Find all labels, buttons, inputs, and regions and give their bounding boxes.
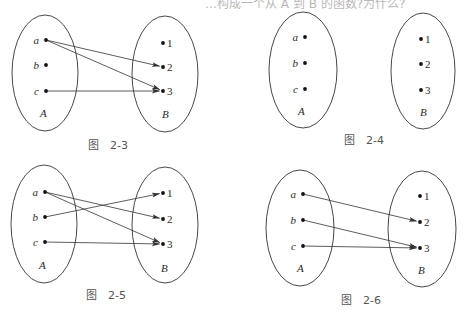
codomain-point-3 — [419, 88, 423, 92]
domain-label-c: c — [291, 240, 296, 252]
set-a-label: A — [39, 107, 47, 119]
codomain-point-1 — [161, 41, 165, 45]
domain-point-c — [44, 89, 48, 93]
figure-caption: 图 2-3 — [88, 139, 128, 152]
domain-label-a: a — [293, 31, 299, 43]
domain-point-a — [43, 190, 47, 194]
domain-point-b — [43, 215, 47, 219]
domain-label-c: c — [33, 236, 38, 248]
codomain-point-1 — [161, 191, 165, 195]
mapping-arrow-a-to-2 — [303, 194, 417, 221]
mapping-arrow-a-to-2 — [46, 40, 160, 66]
codomain-point-2 — [418, 220, 422, 224]
codomain-label-2: 2 — [167, 61, 173, 73]
set-b-label: B — [418, 264, 425, 276]
codomain-label-1: 1 — [167, 187, 173, 199]
set-b-label: B — [161, 262, 168, 274]
codomain-label-3: 3 — [425, 84, 431, 96]
mapping-arrow-a-to-3 — [46, 40, 160, 90]
function-mapping-diagrams: abc123AB图 2-3abc123AB图 2-4abc123AB图 2-5a… — [0, 0, 463, 310]
domain-label-b: b — [293, 57, 299, 69]
domain-point-b — [303, 61, 307, 65]
codomain-label-3: 3 — [167, 238, 173, 250]
mapping-arrow-a-to-3 — [45, 192, 160, 243]
domain-point-a — [301, 192, 305, 196]
domain-label-c: c — [34, 85, 39, 97]
domain-label-a: a — [291, 188, 297, 200]
set-b-label: B — [420, 106, 427, 118]
domain-label-a: a — [34, 34, 40, 46]
mapping-arrow-b-to-3 — [303, 220, 417, 247]
codomain-label-1: 1 — [425, 33, 431, 45]
set-a-label: A — [38, 259, 46, 271]
codomain-point-2 — [419, 62, 423, 66]
figure-5: abc123AB图 2-5 — [11, 165, 198, 302]
domain-point-b — [44, 63, 48, 67]
codomain-label-2: 2 — [167, 213, 173, 225]
set-a-label: A — [297, 105, 305, 117]
codomain-label-1: 1 — [424, 190, 430, 202]
figure-caption: 图 2-5 — [86, 289, 126, 302]
codomain-label-3: 3 — [167, 85, 173, 97]
codomain-point-2 — [161, 65, 165, 69]
figure-6: abc123AB图 2-6 — [266, 170, 456, 307]
domain-point-a — [303, 35, 307, 39]
domain-label-b: b — [33, 211, 39, 223]
codomain-label-1: 1 — [167, 37, 173, 49]
domain-point-b — [301, 218, 305, 222]
domain-label-b: b — [291, 214, 297, 226]
domain-point-c — [301, 244, 305, 248]
codomain-point-3 — [418, 246, 422, 250]
domain-point-c — [43, 240, 47, 244]
mapping-arrow-b-to-1 — [45, 194, 160, 217]
domain-label-b: b — [34, 59, 40, 71]
figure-3: abc123AB图 2-3 — [12, 15, 198, 152]
codomain-point-2 — [161, 217, 165, 221]
figure-caption: 图 2-4 — [344, 134, 384, 147]
codomain-point-1 — [418, 194, 422, 198]
codomain-point-3 — [161, 89, 165, 93]
domain-label-c: c — [293, 83, 298, 95]
figure-caption: 图 2-6 — [341, 294, 381, 307]
codomain-point-1 — [419, 37, 423, 41]
domain-point-a — [44, 38, 48, 42]
set-b-label: B — [162, 108, 169, 120]
domain-point-c — [303, 87, 307, 91]
mapping-arrow-c-to-3 — [45, 242, 160, 244]
set-a-label: A — [296, 262, 304, 274]
codomain-point-3 — [161, 242, 165, 246]
mapping-arrow-c-to-3 — [303, 246, 417, 248]
codomain-label-2: 2 — [424, 216, 430, 228]
figure-4: abc123AB图 2-4 — [269, 12, 455, 147]
codomain-label-2: 2 — [425, 58, 431, 70]
codomain-label-3: 3 — [424, 242, 430, 254]
domain-label-a: a — [33, 186, 39, 198]
